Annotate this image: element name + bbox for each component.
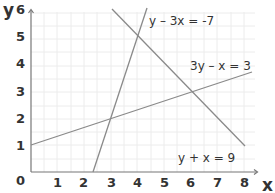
line-y-plus-x	[112, 9, 245, 146]
equation-label-1: y – 3x = -7	[149, 14, 214, 28]
x-axis-label: x	[262, 175, 273, 193]
equation-label-3: y + x = 9	[178, 151, 235, 165]
x-tick: 5	[160, 175, 169, 190]
x-tick: 3	[107, 175, 116, 190]
line-chart: y x 6 5 4 3 2 1 0 1 2 3 4 5 6 7 8 y – 3x…	[0, 0, 275, 193]
y-tick: 3	[16, 84, 25, 99]
equation-lines	[31, 8, 252, 172]
line-y-minus-3x	[93, 8, 147, 172]
y-axis-label: y	[3, 0, 14, 20]
equation-label-2: 3y – x = 3	[190, 59, 251, 73]
x-tick: 1	[53, 175, 62, 190]
grid	[31, 12, 255, 172]
origin-label: 0	[16, 173, 25, 188]
y-tick: 5	[16, 29, 25, 44]
y-tick: 4	[16, 56, 25, 71]
x-tick: 6	[186, 175, 195, 190]
y-tick: 2	[16, 111, 25, 126]
x-tick: 7	[213, 175, 222, 190]
line-3y-minus-x	[31, 72, 252, 145]
y-tick: 6	[16, 2, 25, 17]
y-tick: 1	[16, 138, 25, 153]
x-tick: 8	[240, 175, 249, 190]
x-tick: 2	[79, 175, 88, 190]
x-tick: 4	[133, 175, 142, 190]
x-tick-labels: 1 2 3 4 5 6 7 8	[53, 175, 249, 190]
y-tick-labels: 6 5 4 3 2 1 0	[16, 2, 25, 188]
